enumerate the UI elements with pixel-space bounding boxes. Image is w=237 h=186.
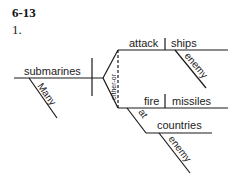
subject-word: submarines	[24, 65, 81, 77]
upper-object-word: ships	[171, 37, 197, 49]
subject-modifier-word: Many	[35, 81, 58, 107]
lower-verb-word: fire	[144, 95, 159, 107]
preposition-word: at	[136, 107, 150, 120]
prep-object-word: countries	[157, 119, 202, 131]
fork-upper	[103, 50, 118, 78]
upper-verb-word: attack	[129, 37, 159, 49]
sentence-diagram: submarines Many either-or attack ships e…	[0, 0, 237, 186]
conjunction-word: either-or	[110, 73, 117, 100]
lower-object-word: missiles	[172, 95, 212, 107]
